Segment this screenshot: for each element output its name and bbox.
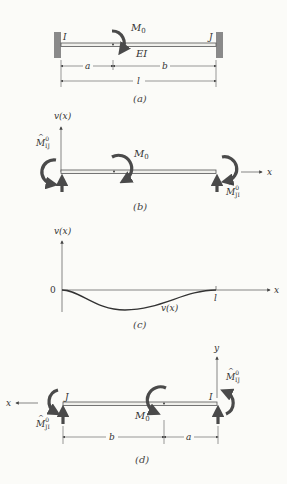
right-end-moment-arrow <box>226 392 233 414</box>
caption-d: (d) <box>135 454 149 465</box>
caption-b: (b) <box>133 201 147 212</box>
end-label-l: l <box>214 293 217 303</box>
origin-label: 0 <box>50 285 56 295</box>
left-end-moment-arrow <box>42 160 56 184</box>
caption-a: (a) <box>133 93 147 104</box>
label-M0: M0 <box>134 410 150 423</box>
panel-d: y J I M0JI ^ M0 M0IJ ^ x b a (d) <box>6 343 240 465</box>
axis-label-x: x <box>6 398 11 408</box>
dim-a: a <box>85 61 90 71</box>
svg-text:^: ^ <box>38 133 44 141</box>
axis-label-y: y <box>213 343 220 353</box>
axis-label-x: x <box>274 285 279 295</box>
axis-label-vx: v(x) <box>54 226 72 236</box>
svg-text:^: ^ <box>228 367 234 375</box>
applied-moment-arrow <box>147 387 166 412</box>
dim-b: b <box>162 61 168 71</box>
left-end-moment-arrow <box>49 390 58 412</box>
axis-label-vx: v(x) <box>54 111 72 121</box>
left-fixed-wall <box>54 32 61 58</box>
right-fixed-wall <box>216 32 223 58</box>
applied-moment-arrow <box>112 31 124 50</box>
beam <box>63 402 217 406</box>
beam <box>61 170 216 174</box>
svg-text:^: ^ <box>38 414 44 422</box>
label-M0: M0 <box>133 148 149 161</box>
beam-figure: I J M0 EI a b l (a) v(x) M0IJ ^ M0 <box>0 0 287 484</box>
dim-a: a <box>186 432 191 442</box>
right-end-moment-arrow <box>222 157 237 181</box>
label-J: J <box>207 32 214 42</box>
caption-c: (c) <box>133 319 147 330</box>
panel-a: I J M0 EI a b l (a) <box>54 22 223 104</box>
panel-b: v(x) M0IJ ^ M0 M0JI ^ x (b) <box>35 111 272 212</box>
curve-label-vx: v(x) <box>161 303 179 313</box>
svg-text:^: ^ <box>228 182 234 190</box>
label-J: J <box>63 392 70 402</box>
label-M0: M0 <box>130 22 146 35</box>
beam <box>61 43 216 47</box>
label-I: I <box>208 392 213 402</box>
dim-l: l <box>137 76 140 86</box>
applied-moment-arrow <box>112 155 132 180</box>
panel-c: v(x) 0 l x v(x) (c) <box>50 226 279 330</box>
label-EI: EI <box>135 48 148 59</box>
dim-b: b <box>109 432 115 442</box>
deflection-curve <box>62 290 216 310</box>
axis-label-x: x <box>267 167 272 177</box>
label-I: I <box>62 32 67 42</box>
